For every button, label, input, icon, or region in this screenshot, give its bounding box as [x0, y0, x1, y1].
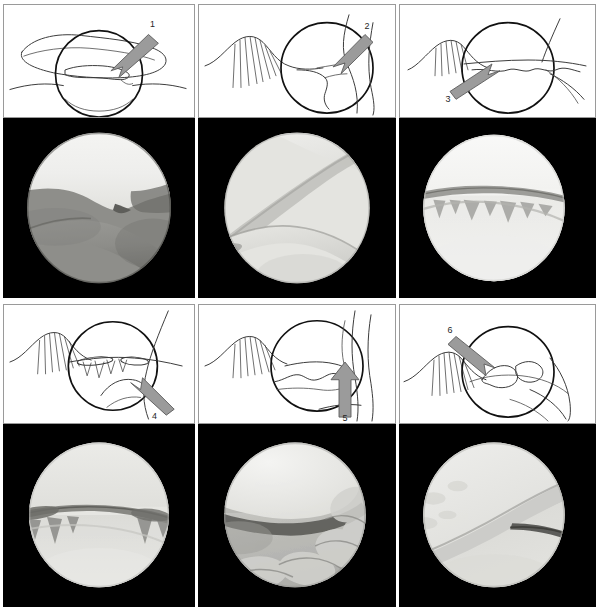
panel-3-callout: 3 [445, 94, 450, 104]
panel-4: 4 [3, 304, 195, 607]
panel-5-callout: 5 [342, 413, 347, 423]
panel-2-schematic: 2 [198, 4, 396, 118]
panel-4-photo [3, 424, 195, 607]
panel-6: 6 [399, 304, 596, 607]
panel-2-callout: 2 [364, 21, 369, 31]
panel-3-photo [399, 118, 596, 298]
panel-3-schematic: 3 [399, 4, 596, 118]
panel-2: 2 [198, 4, 396, 298]
panel-2-photo [198, 118, 396, 298]
panel-5-schematic: 5 [198, 304, 396, 424]
panel-6-photo [399, 424, 596, 607]
panel-4-schematic: 4 [3, 304, 195, 424]
panel-3: 3 [399, 4, 596, 298]
panel-1-callout: 1 [150, 19, 155, 29]
panel-1-schematic: 1 [3, 4, 195, 118]
panel-6-callout: 6 [447, 325, 452, 335]
panel-5: 5 [198, 304, 396, 607]
panel-5-photo [198, 424, 396, 607]
panel-4-callout: 4 [152, 411, 157, 421]
panel-6-schematic: 6 [399, 304, 596, 424]
panel-1: 1 [3, 4, 195, 298]
panel-1-photo [3, 118, 195, 298]
